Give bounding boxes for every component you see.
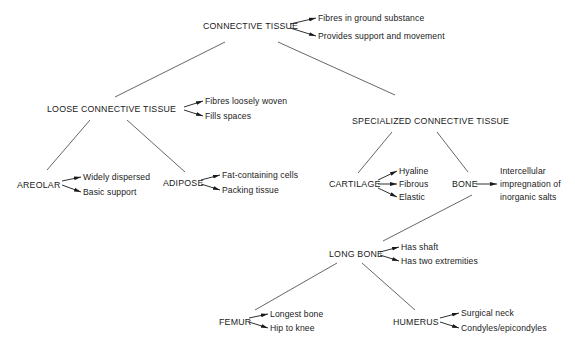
node-specialized-connective-tissue: SPECIALIZED CONNECTIVE TISSUE <box>352 116 509 126</box>
node-long-bone: LONG BONE <box>329 249 383 259</box>
note-provides-support: Provides support and movement <box>318 31 445 41</box>
note-packing-tissue: Packing tissue <box>222 185 279 195</box>
note-fibres-ground-substance: Fibres in ground substance <box>318 13 424 23</box>
note-elastic: Elastic <box>399 192 425 202</box>
note-longest-bone: Longest bone <box>270 309 323 319</box>
node-connective-tissue: CONNECTIVE TISSUE <box>203 21 298 31</box>
node-areolar: AREOLAR <box>17 180 60 190</box>
node-bone: BONE <box>452 179 478 189</box>
note-fibres-loosely-woven: Fibres loosely woven <box>205 96 287 106</box>
node-humerus: HUMERUS <box>393 317 439 327</box>
note-inorganic-salts: inorganic salts <box>500 192 556 202</box>
note-hyaline: Hyaline <box>399 166 428 176</box>
node-femur: FEMUR <box>219 317 251 327</box>
note-has-two-extremities: Has two extremities <box>401 256 478 266</box>
note-fibrous: Fibrous <box>399 179 428 189</box>
note-hip-to-knee: Hip to knee <box>270 323 315 333</box>
note-widely-dispersed: Widely dispersed <box>83 172 150 182</box>
note-surgical-neck: Surgical neck <box>461 308 514 318</box>
node-loose-connective-tissue: LOOSE CONNECTIVE TISSUE <box>47 104 176 114</box>
node-cartilage: CARTILAGE <box>329 179 381 189</box>
node-adipose: ADIPOSE <box>163 178 204 188</box>
note-impregnation-of: impregnation of <box>500 179 561 189</box>
note-basic-support: Basic support <box>83 187 136 197</box>
note-intercellular: Intercellular <box>500 166 546 176</box>
note-fat-containing-cells: Fat-containing cells <box>222 170 298 180</box>
note-fills-spaces: Fills spaces <box>205 111 251 121</box>
note-has-shaft: Has shaft <box>401 242 438 252</box>
note-condyles-epicondyles: Condyles/epicondyles <box>461 323 547 333</box>
